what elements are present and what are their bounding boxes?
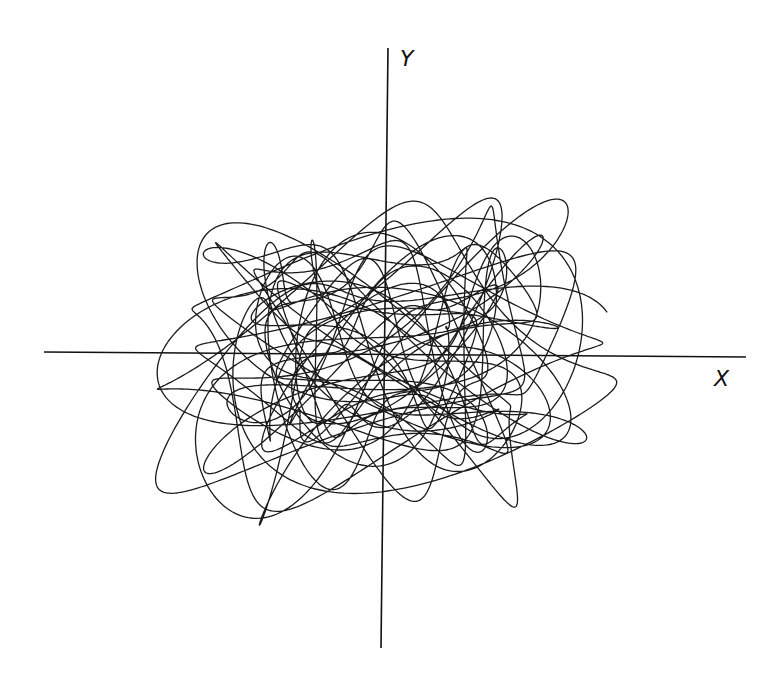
x-axis-label: X: [714, 366, 729, 391]
y-axis-label: Y: [400, 46, 413, 71]
trajectory-plot: [0, 0, 782, 676]
